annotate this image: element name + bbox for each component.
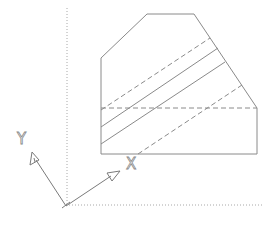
y-axis-label: Y: [16, 130, 27, 148]
diagonal-solid-line-2[interactable]: [101, 62, 225, 144]
drawing-canvas: Y X: [0, 0, 272, 226]
x-axis-label: X: [126, 155, 136, 173]
y-axis-arrow-shaft: [36, 160, 66, 206]
diagonal-solid-line-1[interactable]: [101, 48, 218, 127]
diagonal-dashed-line-lower[interactable]: [138, 85, 242, 154]
x-axis-arrow-shaft: [66, 176, 111, 206]
plate-outline[interactable]: [101, 14, 257, 154]
ucs-icon: [30, 152, 120, 208]
x-axis-arrowhead-icon: [107, 171, 120, 181]
origin-tick: [62, 202, 70, 208]
y-arrowhead-inner: [34, 158, 35, 162]
diagonal-dashed-line-upper[interactable]: [101, 38, 210, 110]
